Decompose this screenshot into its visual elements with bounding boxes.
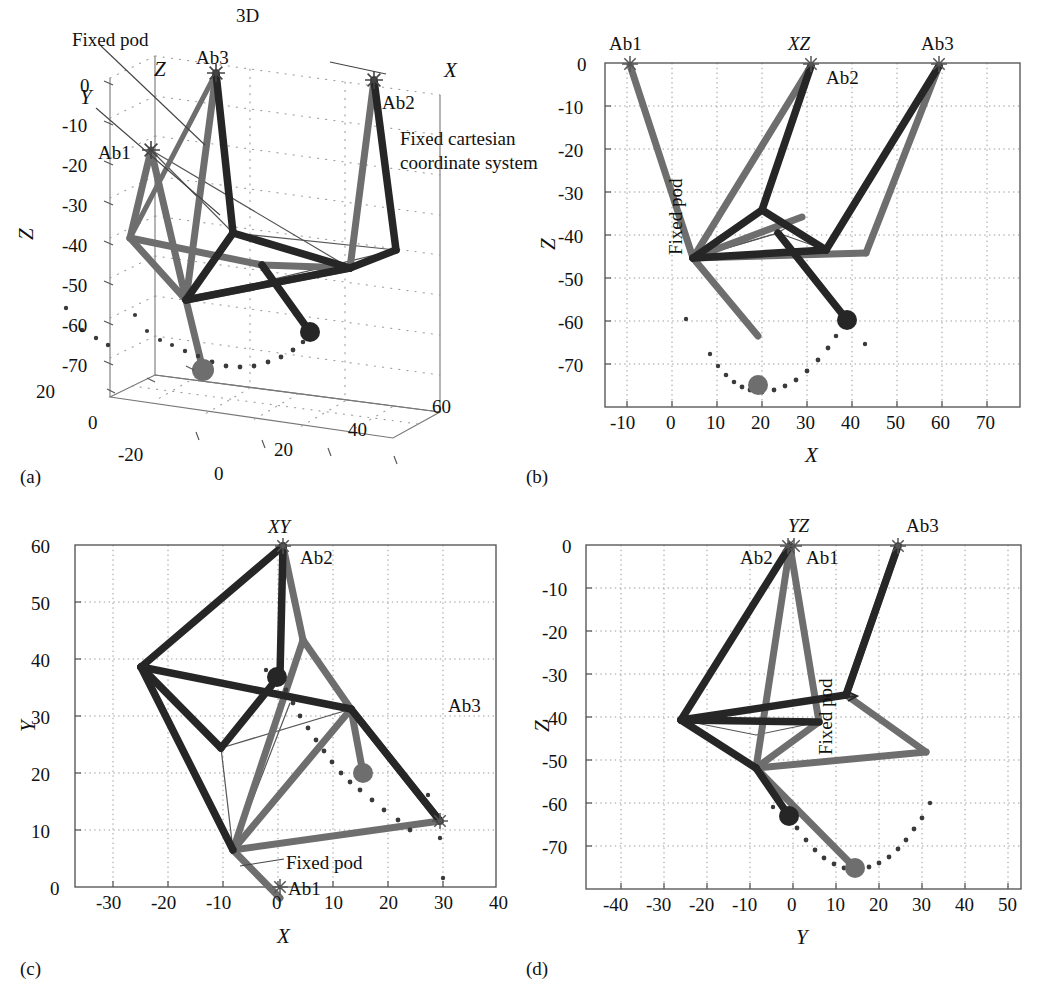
panel-b-xtick-2: 10 [706, 413, 725, 432]
panel-c-xtick-4: 10 [324, 893, 343, 912]
panel-b-xtick-0: -10 [610, 413, 635, 432]
panel-a-frame-note-line1: Fixed cartesian [400, 129, 516, 148]
panel-a-3d: (a) 3D Fixed pod Fixed cartesian coordin… [0, 0, 526, 500]
panel-c-node-ab2: Ab2 [300, 548, 333, 567]
panel-d-ytick-2: -20 [542, 623, 567, 642]
panel-a-xtick-0: 0 [214, 464, 224, 483]
anchor-ab1-star [622, 56, 638, 72]
panel-c-ytick-2: 40 [31, 651, 50, 670]
anchor-ab3-star [432, 813, 448, 829]
panel-c-xtick-7: 40 [489, 893, 508, 912]
panel-c-xtick-5: 20 [379, 893, 398, 912]
panel-b-node-ab3: Ab3 [921, 34, 954, 53]
panel-c-ytick-1: 50 [31, 594, 50, 613]
end-effector-gray [845, 858, 865, 878]
panel-a-ztick-0: 0 [80, 76, 90, 95]
panel-b-fixed-pod-label: Fixed pod [666, 178, 685, 255]
anchor-ab2-star [803, 56, 819, 72]
panel-c-node-ab3: Ab3 [448, 696, 481, 715]
end-effector-dark [779, 806, 799, 826]
panel-b-xtick-8: 70 [976, 413, 995, 432]
trajectory-dots [684, 317, 867, 395]
panel-b-ytick-3: -30 [558, 184, 583, 203]
end-effector-dark [837, 310, 857, 330]
panel-b-xtick-6: 50 [886, 413, 905, 432]
panel-b-xtick-3: 20 [751, 413, 770, 432]
panel-b-xtick-7: 60 [931, 413, 950, 432]
panel-c-ytick-0: 60 [31, 537, 50, 556]
panel-c-xtick-1: -20 [151, 893, 176, 912]
panel-d-caption: (d) [526, 958, 548, 980]
dark-struts [681, 546, 898, 816]
end-effector-dark [300, 322, 320, 342]
panel-d-axis-y: Y [796, 925, 808, 950]
panel-a-ztick-2: -20 [62, 156, 87, 175]
panel-c-fixed-pod-label: Fixed pod [286, 853, 363, 872]
panel-b-ytick-1: -10 [558, 98, 583, 117]
gray-struts [130, 73, 374, 370]
panel-a-xtick-1: 20 [274, 440, 293, 459]
panel-c-xtick-3: 0 [272, 893, 282, 912]
panel-b-ytick-5: -50 [558, 270, 583, 289]
end-effector-gray [748, 375, 768, 395]
panel-c-ytick-5: 10 [31, 822, 50, 841]
panel-d-xtick-5: 10 [826, 895, 845, 914]
panel-d-xtick-3: -10 [732, 895, 757, 914]
panel-a-fixed-pod-label: Fixed pod [72, 30, 149, 49]
panel-a-node-ab1: Ab1 [98, 143, 131, 162]
panel-d-ytick-7: -70 [542, 838, 567, 857]
panel-a-axis-x: X [444, 58, 457, 83]
panel-c-caption: (c) [20, 958, 41, 980]
panel-a-ztick-4: -40 [62, 236, 87, 255]
panel-b-ytick-4: -40 [558, 227, 583, 246]
panel-d-ytick-6: -60 [542, 795, 567, 814]
panel-a-ytick-0: 20 [36, 382, 55, 401]
panel-a-node-ab2: Ab2 [382, 93, 415, 112]
panel-d-xtick-7: 30 [912, 895, 931, 914]
panel-c-xtick-6: 30 [434, 893, 453, 912]
panel-c-ytick-4: 20 [31, 765, 50, 784]
panel-d-fixed-pod-label: Fixed pod [816, 678, 835, 755]
panel-a-axis-z: Z [154, 57, 166, 82]
panel-a-ytick-2: -20 [118, 445, 143, 464]
panel-d-ytick-3: -30 [542, 666, 567, 685]
panel-a-ztick-1: -10 [62, 116, 87, 135]
end-effector-dark [267, 667, 287, 687]
panel-a-xtick-2: 40 [348, 420, 367, 439]
panel-d-ytick-4: -40 [542, 709, 567, 728]
anchor-ab1-star [786, 538, 802, 554]
panel-d-xtick-1: -30 [646, 895, 671, 914]
panel-b-ytick-2: -20 [558, 141, 583, 160]
panel-d-ytick-0: 0 [562, 537, 572, 556]
z-axis-ticks [104, 81, 113, 365]
panel-a-ztick-3: -30 [62, 196, 87, 215]
panel-a-ztick-5: -50 [62, 276, 87, 295]
panel-a-caption: (a) [20, 466, 41, 488]
panel-a-ytick-1: 0 [88, 413, 98, 432]
panel-c-xtick-2: -10 [206, 893, 231, 912]
panel-d-xtick-8: 40 [955, 895, 974, 914]
panel-a-frame-note-line2: coordinate system [400, 153, 538, 172]
dark-struts [186, 73, 396, 332]
anchor-ab2-star [275, 538, 291, 554]
panel-c-ytick-3: 30 [31, 708, 50, 727]
panel-b-title: XZ [788, 34, 810, 53]
panel-b-plot [526, 0, 1052, 500]
panel-b-xtick-4: 30 [796, 413, 815, 432]
panel-b-ytick-6: -60 [558, 313, 583, 332]
panel-a-axis-z-side: Z [14, 228, 39, 240]
panel-d-ytick-1: -10 [542, 580, 567, 599]
panel-b-xtick-1: 0 [666, 413, 676, 432]
panel-c-xtick-0: -30 [96, 893, 121, 912]
panel-b-node-ab1: Ab1 [609, 34, 642, 53]
panel-a-ztick-6: -60 [62, 316, 87, 335]
panel-d-node-ab2: Ab2 [740, 548, 773, 567]
panel-d-node-ab3: Ab3 [906, 516, 939, 535]
end-effector-gray [192, 359, 214, 381]
panel-a-ztick-7: -70 [62, 356, 87, 375]
anchor-ab3-star [931, 56, 947, 72]
panel-c-node-ab1: Ab1 [288, 879, 321, 898]
panel-d-xtick-2: -20 [689, 895, 714, 914]
panel-a-title: 3D [236, 6, 259, 25]
panel-d-xtick-4: 0 [787, 895, 797, 914]
